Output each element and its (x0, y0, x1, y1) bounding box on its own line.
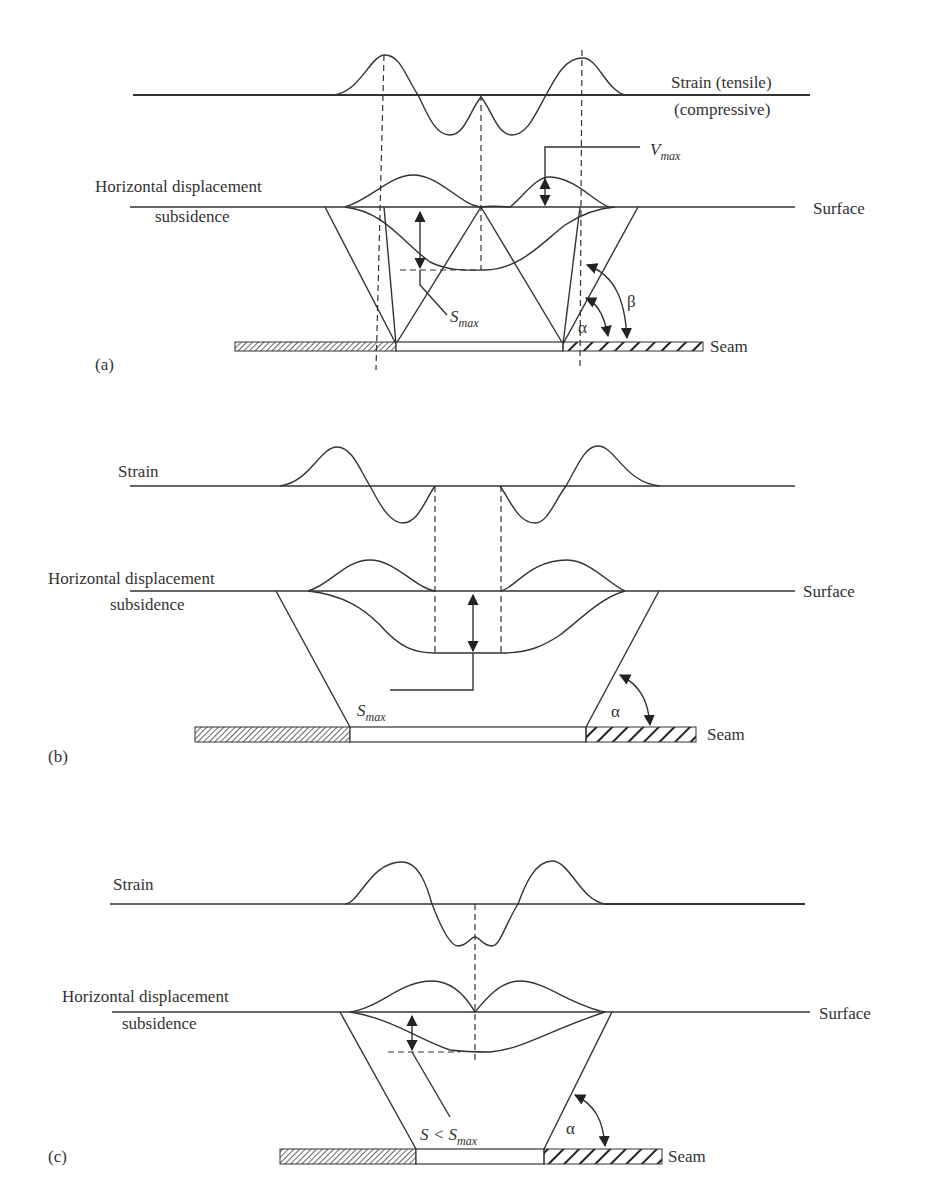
subsidence-label: subsidence (155, 207, 230, 226)
seam-extracted-panel (416, 1149, 544, 1164)
seam-solid-right (586, 727, 696, 742)
horizontal-displacement-label: Horizontal displacement (95, 177, 262, 196)
panel-c: Strain Horizontal displacement subsidenc… (48, 861, 871, 1166)
horizontal-displacement-curve (345, 175, 610, 207)
seam-extracted-panel (396, 342, 563, 351)
seam-extracted-panel (350, 727, 586, 742)
smax-leader (420, 270, 447, 315)
strain-curve (280, 446, 660, 523)
panel-tag: (a) (95, 355, 114, 374)
limit-line (481, 207, 563, 344)
beta-angle-arc (587, 265, 627, 338)
limit-line (340, 1012, 416, 1149)
seam-label: Seam (707, 725, 745, 744)
horizontal-displacement-curve (350, 981, 605, 1012)
panel-a: Strain (tensile) (compressive) Vmax Hori… (95, 50, 865, 374)
smax-label: Smax (357, 701, 386, 724)
s-leader (412, 1052, 450, 1117)
smax-leader (390, 653, 473, 690)
seam-solid-left (235, 342, 396, 351)
subsidence-curve (308, 591, 625, 653)
seam-label: Seam (668, 1147, 706, 1166)
horizontal-displacement-label: Horizontal displacement (62, 987, 229, 1006)
limit-line (563, 207, 638, 344)
alpha-angle-arc (620, 675, 650, 725)
seam-solid-left (280, 1149, 416, 1164)
smax-label: Smax (450, 307, 479, 330)
alpha-angle-arc (586, 298, 608, 336)
subsidence-label: subsidence (110, 595, 185, 614)
seam-solid-right (544, 1149, 662, 1164)
surface-label: Surface (813, 199, 865, 218)
seam-label: Seam (710, 337, 748, 356)
panel-tag: (b) (48, 747, 68, 766)
horizontal-displacement-curve (308, 560, 625, 591)
s-less-than-smax-label: S < Smax (420, 1125, 478, 1148)
alpha-label: α (611, 702, 620, 721)
vmax-label: Vmax (650, 140, 681, 163)
panel-tag: (c) (48, 1147, 67, 1166)
beta-label: β (627, 292, 636, 311)
seam-solid-left (195, 727, 350, 742)
surface-label: Surface (803, 582, 855, 601)
alpha-label: α (578, 318, 587, 337)
subsidence-label: subsidence (122, 1014, 197, 1033)
seam-solid-right (563, 342, 703, 351)
subsidence-diagram: Strain (tensile) (compressive) Vmax Hori… (0, 0, 927, 1194)
alpha-angle-arc (575, 1095, 605, 1146)
limit-line (276, 591, 350, 727)
dashed-guide (376, 55, 384, 370)
subsidence-curve (350, 1012, 605, 1052)
strain-label: Strain (118, 462, 159, 481)
panel-b: Strain Horizontal displacement subsidenc… (48, 446, 855, 766)
strain-tensile-label: Strain (tensile) (671, 73, 772, 92)
vmax-leader (545, 147, 640, 179)
surface-label: Surface (819, 1004, 871, 1023)
limit-line (586, 591, 659, 727)
strain-compressive-label: (compressive) (674, 100, 770, 119)
horizontal-displacement-label: Horizontal displacement (48, 569, 215, 588)
strain-label: Strain (113, 875, 154, 894)
alpha-label: α (566, 1119, 575, 1138)
